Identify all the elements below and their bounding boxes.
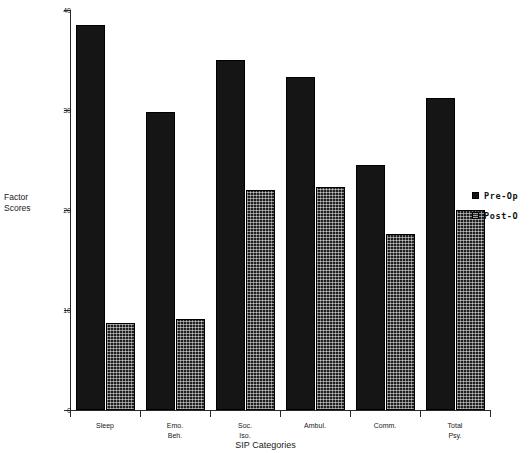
y-tick-label-wrap: 10 xyxy=(38,307,71,308)
y-tick-label: 10 xyxy=(49,307,71,314)
x-axis-label: SIP Categories xyxy=(0,440,531,450)
bar-post-op-2 xyxy=(246,190,275,410)
x-category-label: Total Psy. xyxy=(420,421,490,440)
bar-pre-op-5 xyxy=(426,98,455,410)
y-tick-label-wrap: 20 xyxy=(38,207,71,208)
legend-label-pre-op: Pre-Op xyxy=(484,191,518,201)
bar-pre-op-0 xyxy=(76,25,105,410)
x-tick-mark xyxy=(70,410,71,417)
chart-legend: Pre-Op Post-O xyxy=(472,186,518,226)
bar-post-op-1 xyxy=(176,319,205,410)
x-category-label: Soc. Iso. xyxy=(210,421,280,440)
bar-chart: Factor Scores 010203040 SleepEmo. Beh.So… xyxy=(0,0,531,453)
bar-pre-op-1 xyxy=(146,112,175,410)
y-tick-label: 20 xyxy=(49,207,71,214)
x-tick-mark xyxy=(140,410,141,417)
bar-post-op-3 xyxy=(316,187,345,410)
x-category-label: Comm. xyxy=(350,421,420,431)
x-tick-mark xyxy=(420,410,421,417)
bar-pre-op-3 xyxy=(286,77,315,410)
legend-swatch-post-op-icon xyxy=(472,212,479,219)
legend-item-pre-op: Pre-Op xyxy=(472,186,518,206)
x-tick-mark xyxy=(350,410,351,417)
x-tick-mark xyxy=(490,410,491,417)
x-category-label: Emo. Beh. xyxy=(140,421,210,440)
bar-post-op-4 xyxy=(386,234,415,410)
x-tick-mark xyxy=(280,410,281,417)
y-tick-label-wrap: 0 xyxy=(38,407,71,408)
y-tick-label-wrap: 30 xyxy=(38,107,71,108)
legend-swatch-pre-op-icon xyxy=(472,192,479,199)
x-category-label: Ambul. xyxy=(280,421,350,431)
legend-item-post-op: Post-O xyxy=(472,206,518,226)
bar-post-op-5 xyxy=(456,210,485,410)
legend-label-post-op: Post-O xyxy=(484,211,518,221)
bar-pre-op-2 xyxy=(216,60,245,410)
bar-pre-op-4 xyxy=(356,165,385,410)
y-tick-label: 40 xyxy=(49,7,71,14)
y-tick-label-wrap: 40 xyxy=(38,7,71,8)
x-tick-mark xyxy=(210,410,211,417)
x-category-label: Sleep xyxy=(70,421,140,431)
y-tick-label: 30 xyxy=(49,107,71,114)
bar-post-op-0 xyxy=(106,323,135,410)
y-tick-label: 0 xyxy=(49,407,71,414)
